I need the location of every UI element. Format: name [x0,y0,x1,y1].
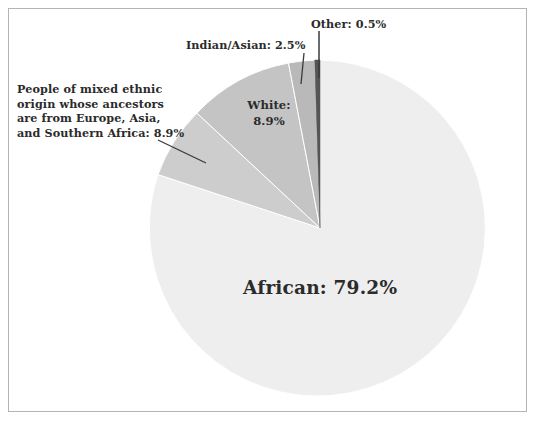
slice-label-other: Other: 0.5% [311,17,386,32]
slice-label-indian-asian: Indian/Asian: 2.5% [186,38,305,53]
slice-label-white: White: 8.9% [236,98,302,130]
pie-chart-graphic [0,0,542,426]
pie-chart-figure: People of mixed ethnic origin whose ance… [0,0,542,426]
slice-label-mixed-origin: People of mixed ethnic origin whose ance… [17,82,222,140]
slice-label-african: African: 79.2% [243,276,397,300]
